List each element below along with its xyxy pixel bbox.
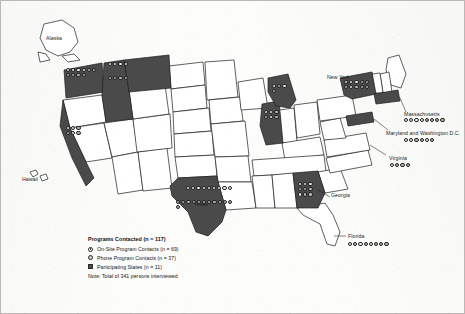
state-swatch-icon: [88, 264, 97, 269]
phone-symbol: [186, 200, 190, 204]
on-site-symbol: [228, 186, 232, 190]
on-site-symbol: [344, 80, 348, 84]
legend-item-on-site: On-Site Program Contacts (n = 69): [88, 246, 214, 254]
state-montana: [124, 55, 171, 92]
state-new-mexico: [138, 148, 172, 191]
phone-symbol: [176, 205, 180, 209]
on-site-symbol: [71, 68, 75, 72]
label-maryland-dc: Maryland and Washington D.C.: [386, 131, 460, 136]
symbol-cluster-georgia: [298, 182, 316, 197]
phone-symbol: [430, 118, 434, 122]
phone-symbol: [82, 73, 86, 77]
phone-symbol: [108, 76, 112, 80]
symbol-cluster-california: [66, 126, 82, 135]
phone-symbol: [395, 163, 399, 167]
on-site-symbol: [124, 62, 128, 66]
state-west-virginia: [320, 118, 346, 140]
label-florida: Florida: [348, 234, 364, 239]
phone-symbol: [440, 118, 444, 122]
phone-symbol: [353, 242, 357, 246]
phone-symbol: [354, 85, 358, 89]
phone-symbol: [71, 73, 75, 77]
legend-item-label: On-Site Program Contacts (n = 69): [97, 246, 179, 252]
state-kansas: [174, 131, 214, 157]
phone-symbol: [76, 73, 80, 77]
on-site-symbol: [202, 186, 206, 190]
phone-symbol: [264, 115, 268, 119]
phone-symbol: [176, 200, 180, 204]
phone-symbol: [274, 110, 278, 114]
on-site-symbol: [425, 138, 429, 142]
on-site-symbol: [186, 186, 190, 190]
on-site-symbol: [196, 186, 200, 190]
on-site-symbol: [108, 62, 112, 66]
phone-symbol: [430, 138, 434, 142]
phone-symbol: [308, 192, 312, 196]
phone-symbol: [360, 80, 364, 84]
phone-symbol: [414, 138, 418, 142]
on-site-symbol: [308, 182, 312, 186]
on-site-symbol: [303, 182, 307, 186]
phone-symbol: [374, 242, 378, 246]
state-arkansas: [215, 156, 251, 182]
phone-symbol: [308, 187, 312, 191]
legend-item-label: Participating States (n = 11): [97, 264, 162, 270]
leader-virginia: [370, 145, 386, 155]
on-site-symbol: [66, 68, 70, 72]
on-site-symbol: [349, 80, 353, 84]
on-site-symbol: [66, 126, 70, 130]
state-oklahoma: [175, 155, 217, 178]
legend-note: Note: Total of 341 persons interviewed: [88, 273, 214, 279]
on-site-symbol: [420, 118, 424, 122]
phone-symbol: [66, 73, 70, 77]
phone-symbol: [181, 200, 185, 204]
label-massachusetts: Massachusetts: [404, 112, 440, 117]
state-florida: [297, 203, 340, 246]
phone-symbol: [344, 85, 348, 89]
phone-symbol: [277, 84, 281, 88]
phone-symbol: [223, 200, 227, 204]
symbol-cluster-new-york: [344, 80, 372, 89]
phone-symbol: [406, 163, 410, 167]
label-texas: Texas: [194, 202, 208, 207]
label-alaska: Alaska: [46, 36, 62, 41]
legend-item-states: Participating States (n = 11): [88, 263, 214, 271]
on-site-symbol: [222, 186, 226, 190]
state-north-dakota: [169, 62, 205, 89]
phone-symbol: [92, 68, 96, 72]
on-site-symbol: [191, 186, 195, 190]
phone-symbol: [360, 85, 364, 89]
legend: Programs Contacted (n = 117) On-Site Pro…: [88, 236, 214, 279]
label-new-york: New York: [327, 75, 350, 80]
symbol-cluster-idaho-montana: [108, 62, 130, 66]
state-oregon: [63, 95, 106, 128]
label-georgia: Georgia: [331, 193, 350, 198]
symbol-cluster-virginia: [390, 163, 416, 167]
on-site-symbol: [349, 85, 353, 89]
phone-symbol: [76, 126, 80, 130]
phone-symbol: [435, 118, 439, 122]
on-site-symbol: [272, 84, 276, 88]
figure-page: Alaska Hawaii Texas New York Massachuset…: [0, 0, 465, 314]
phone-symbol: [365, 85, 369, 89]
on-site-symbol: [414, 118, 418, 122]
phone-symbol: [365, 80, 369, 84]
symbol-cluster-florida: [348, 242, 394, 246]
phone-symbol: [118, 76, 122, 80]
on-site-symbol: [76, 68, 80, 72]
phone-symbol: [303, 192, 307, 196]
phone-circle-icon: [88, 255, 97, 260]
on-site-symbol: [409, 138, 413, 142]
on-site-symbol: [298, 182, 302, 186]
state-iowa: [209, 97, 243, 124]
state-south-dakota: [171, 85, 207, 112]
on-site-symbol: [354, 80, 358, 84]
label-hawaii: Hawaii: [22, 177, 38, 182]
on-site-symbol: [348, 242, 352, 246]
on-site-symbol: [82, 68, 86, 72]
state-nebraska: [173, 108, 211, 134]
on-site-symbol: [217, 186, 221, 190]
phone-symbol: [425, 118, 429, 122]
state-missouri: [211, 121, 249, 157]
state-mississippi: [252, 175, 275, 208]
